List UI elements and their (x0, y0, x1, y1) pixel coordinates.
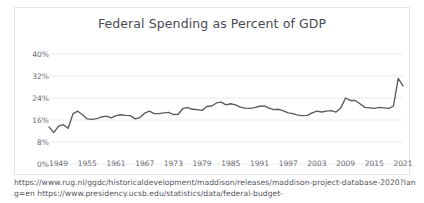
x-tick-label: 1955 (78, 159, 97, 168)
x-tick-label: 1973 (164, 159, 183, 168)
source-footnote: https://www.rug.nl/ggdc/historicaldevelo… (14, 178, 418, 199)
y-tick-label: 32% (17, 72, 49, 81)
x-tick-label: 1997 (279, 159, 298, 168)
x-tick-label: 1961 (106, 159, 125, 168)
screenshot-root: · · · · · · · · Federal Spending as Perc… (0, 0, 424, 203)
x-tick-label: 1967 (135, 159, 154, 168)
y-tick-label: 24% (17, 94, 49, 103)
x-tick-label: 2009 (336, 159, 355, 168)
x-tick-label: 1979 (193, 159, 212, 168)
x-tick-label: 2015 (365, 159, 384, 168)
y-axis-ticks: 0%8%16%24%32%40% (15, 8, 49, 176)
y-tick-label: 40% (17, 50, 49, 59)
line-chart-plot (15, 8, 411, 176)
y-tick-label: 8% (17, 138, 49, 147)
data-line-group (49, 78, 403, 132)
x-tick-label: 1991 (250, 159, 269, 168)
x-tick-label: 2003 (307, 159, 326, 168)
spending-line (49, 78, 403, 132)
chart-card: Federal Spending as Percent of GDP 0%8%1… (14, 7, 410, 175)
gridlines (49, 54, 403, 167)
x-tick-label: 1949 (49, 159, 68, 168)
clipped-text: · · · · · · · · (0, 0, 57, 4)
clipped-text-row: · · · · · · · · (0, 0, 424, 7)
x-tick-label: 1985 (221, 159, 240, 168)
x-tick-label: 2021 (393, 159, 412, 168)
x-axis-ticks: 1949195519611967197319791985199119972003… (15, 159, 411, 173)
y-tick-label: 16% (17, 116, 49, 125)
